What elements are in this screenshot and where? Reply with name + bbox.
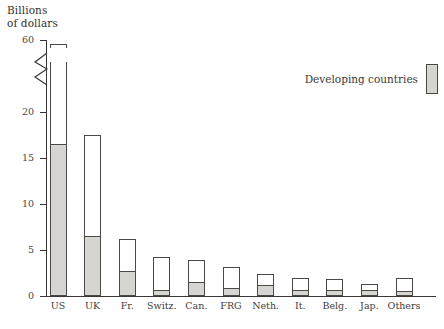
bar-developing-it- [292,290,309,296]
bar-developing-fr- [119,271,136,296]
y-tick-20 [40,112,47,113]
y-tick-label-10: 10 [0,198,34,209]
legend-swatch-developing-countries [426,64,438,94]
bar-developing-belg- [326,290,343,296]
bar-group-others [396,278,413,296]
y-tick-label-60: 60 [0,34,34,45]
y-tick-0 [40,296,47,297]
bar-developing-jap- [361,290,378,296]
bar-chart: Billions of dollars 0510152060 USUKFr.Sw… [0,0,444,329]
bar-developing-uk [84,236,101,296]
bar-group-neth- [257,274,274,296]
legend: Developing countries [305,64,438,94]
bar-group-it- [292,278,309,296]
x-label-others: Others [378,300,430,311]
y-tick-5 [40,250,47,251]
bar-group-frg [223,267,240,296]
y-tick-label-15: 15 [0,152,34,163]
bar-developing-can- [188,282,205,296]
bar-developing-switz- [153,290,170,296]
y-tick-label-5: 5 [0,244,34,255]
plot-area: 0510152060 USUKFr.Switz.Can.FRGNeth.It.B… [0,0,444,329]
bar-break-gap-us [50,48,67,62]
bar-group-switz- [153,257,170,296]
bar-developing-others [396,291,413,296]
y-tick-60 [40,40,47,41]
bar-group-belg- [326,279,343,296]
y-tick-10 [40,204,47,205]
y-tick-label-20: 20 [0,106,34,117]
bar-group-can- [188,260,205,296]
bar-group-uk [84,135,101,296]
bar-developing-us [50,144,67,296]
bar-group-fr- [119,239,136,296]
bar-developing-frg [223,288,240,296]
y-tick-label-0: 0 [0,290,34,301]
bar-group-us [50,44,67,296]
bar-group-jap- [361,284,378,296]
bar-developing-neth- [257,285,274,296]
y-tick-15 [40,158,47,159]
legend-label-developing-countries: Developing countries [305,73,418,85]
